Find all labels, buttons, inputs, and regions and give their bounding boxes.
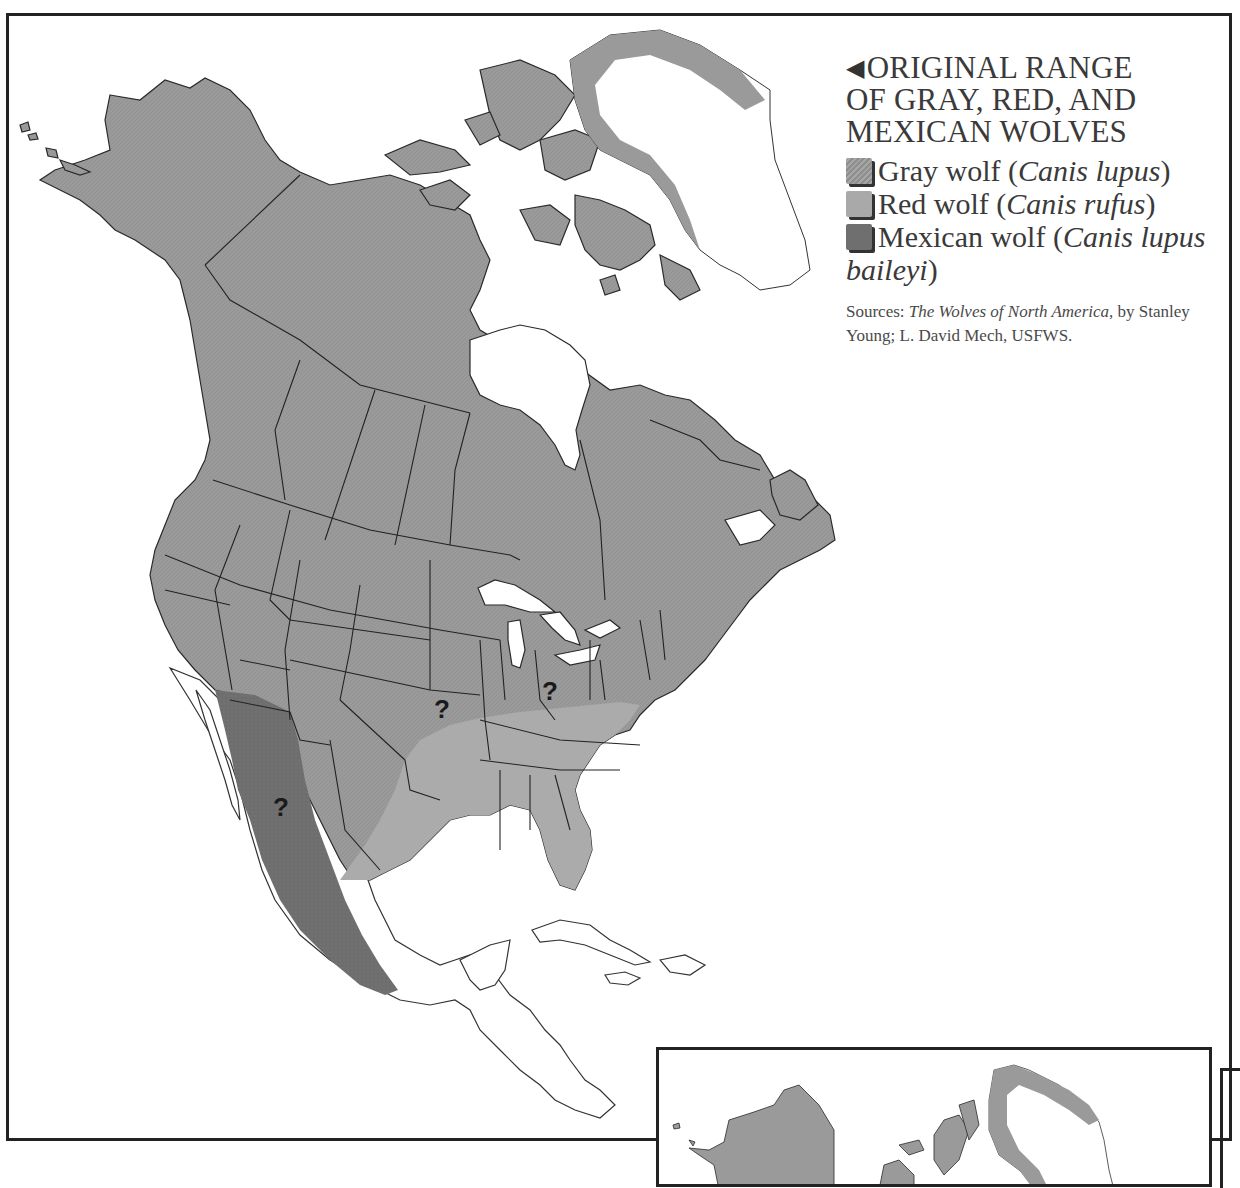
legend-item-red-wolf: Red wolf (Canis rufus)	[846, 187, 1236, 220]
gray-wolf-swatch-icon	[846, 158, 872, 184]
legend-item-mexican-wolf: Mexican wolf (Canis lupus baileyi)	[846, 220, 1236, 286]
inset-map-svg	[659, 1050, 1212, 1187]
left-arrow-icon: ◀	[846, 55, 865, 81]
uncertain-marker-mexico: ?	[273, 792, 289, 822]
map-legend: ◀ORIGINAL RANGE OF GRAY, RED, AND MEXICA…	[846, 52, 1236, 348]
sources-note: Sources: The Wolves of North America, by…	[846, 300, 1236, 348]
uncertain-marker-ohio: ?	[542, 676, 558, 706]
red-wolf-swatch-icon	[846, 191, 872, 217]
legend-item-gray-wolf: Gray wolf (Canis lupus)	[846, 154, 1236, 187]
uncertain-marker-missouri: ?	[434, 694, 450, 724]
inset-back-frame	[1220, 1068, 1240, 1188]
inset-map	[656, 1047, 1212, 1187]
legend-title: ◀ORIGINAL RANGE OF GRAY, RED, AND MEXICA…	[846, 52, 1236, 148]
mexican-wolf-swatch-icon	[846, 224, 872, 250]
